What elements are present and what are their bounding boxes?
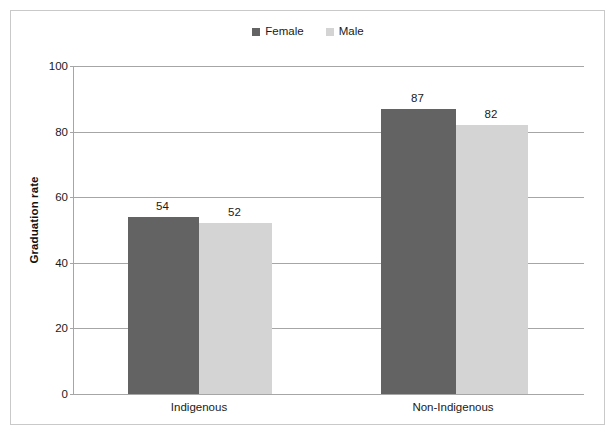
- chart-overlay: 5452Indigenous8782Non-Indigenous: [0, 0, 616, 440]
- bar-chart: Female Male Graduation rate 100806040200…: [0, 0, 616, 440]
- bar-value-label: 82: [455, 108, 527, 120]
- x-axis-category-label: Indigenous: [109, 401, 289, 413]
- x-axis-category-label: Non-Indigenous: [363, 401, 543, 413]
- bar-value-label: 54: [127, 200, 198, 212]
- bar-value-label: 87: [380, 92, 455, 104]
- bar-value-label: 52: [198, 206, 271, 218]
